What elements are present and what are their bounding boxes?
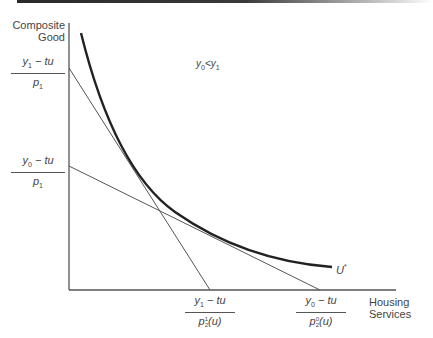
y-axis-label: Composite Good xyxy=(4,19,65,43)
y-intercept-y1-label: y1 − tu p1 xyxy=(11,55,65,93)
curve-label-u-star: U* xyxy=(336,261,347,276)
x-intercept-y1-label: y1 − tu p12(u) xyxy=(185,294,235,328)
x-intercept-y0-label: y0 − tu p02(u) xyxy=(296,294,346,328)
y-intercept-y0-label: y0 − tu p1 xyxy=(11,154,65,192)
income-condition-label: y0<y1 xyxy=(196,58,220,74)
x-axis-label: Housing Services xyxy=(369,296,411,320)
budget-line-y0 xyxy=(69,166,320,290)
budget-line-y1 xyxy=(69,68,210,290)
